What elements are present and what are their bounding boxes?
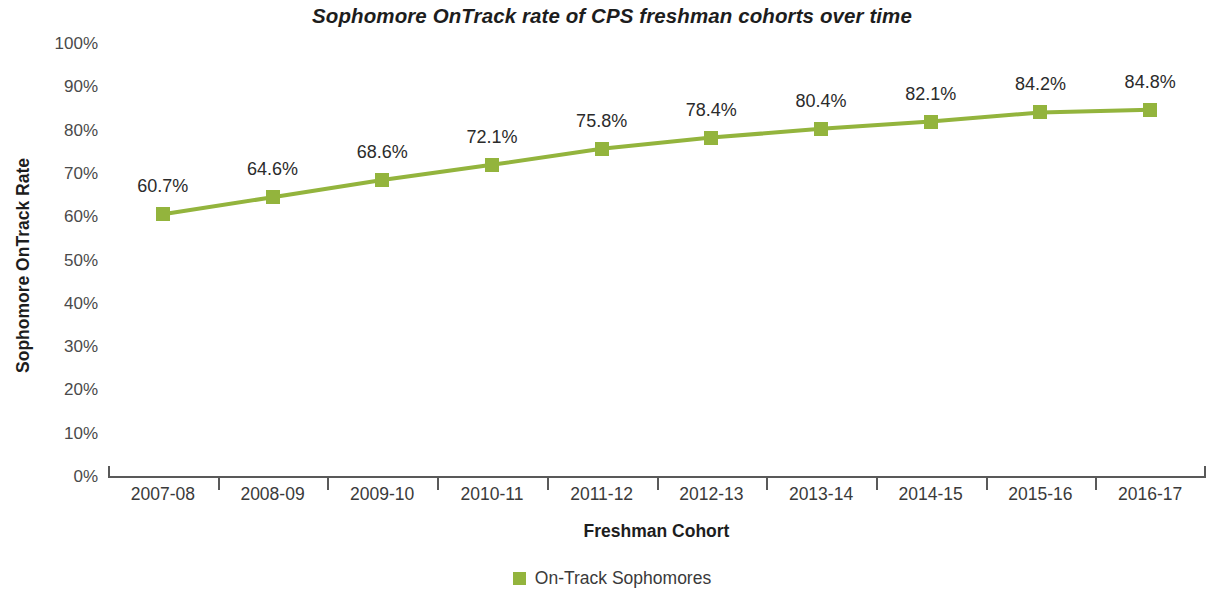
y-axis-tick-label: 40% [8, 295, 98, 312]
x-axis-right-cap [1204, 466, 1206, 478]
y-axis-tick-label: 60% [8, 208, 98, 225]
chart-title: Sophomore OnTrack rate of CPS freshman c… [0, 4, 1224, 28]
chart-legend: On-Track Sophomores [0, 568, 1224, 589]
y-axis-tick-label: 80% [8, 122, 98, 139]
data-point-marker[interactable] [266, 190, 280, 204]
data-point-marker[interactable] [485, 158, 499, 172]
y-axis-tick-label: 20% [8, 381, 98, 398]
y-axis-tick-label: 0% [8, 468, 98, 485]
data-point-marker[interactable] [1143, 103, 1157, 117]
series-polyline [163, 110, 1150, 214]
data-point-label: 78.4% [686, 100, 737, 121]
data-point-marker[interactable] [375, 173, 389, 187]
y-axis-tick-label: 50% [8, 252, 98, 269]
data-point-marker[interactable] [1033, 105, 1047, 119]
data-point-label: 82.1% [905, 84, 956, 105]
y-axis-tick-label: 30% [8, 338, 98, 355]
x-axis-category-label: 2011-12 [547, 484, 657, 505]
x-axis-category-label: 2008-09 [218, 484, 328, 505]
x-axis-category-label: 2015-16 [986, 484, 1096, 505]
legend-swatch-icon [513, 572, 526, 585]
x-axis-category-label: 2014-15 [876, 484, 986, 505]
data-point-marker[interactable] [814, 122, 828, 136]
legend-label: On-Track Sophomores [535, 568, 711, 589]
data-point-label: 72.1% [466, 127, 517, 148]
data-point-marker[interactable] [704, 131, 718, 145]
x-axis-left-cap [108, 466, 110, 478]
x-axis-category-label: 2013-14 [766, 484, 876, 505]
y-axis-tick-label: 10% [8, 425, 98, 442]
x-axis-category-label: 2016-17 [1095, 484, 1205, 505]
data-point-marker[interactable] [924, 115, 938, 129]
data-point-label: 60.7% [137, 176, 188, 197]
data-point-marker[interactable] [156, 207, 170, 221]
data-point-label: 75.8% [576, 111, 627, 132]
y-axis-tick-label: 70% [8, 165, 98, 182]
data-point-label: 84.2% [1015, 74, 1066, 95]
x-axis-category-label: 2010-11 [437, 484, 547, 505]
x-axis-category-label: 2012-13 [657, 484, 767, 505]
data-point-label: 84.8% [1125, 72, 1176, 93]
y-axis-tick-label: 100% [8, 35, 98, 52]
x-axis-category-label: 2007-08 [108, 484, 218, 505]
x-axis-category-label: 2009-10 [327, 484, 437, 505]
chart-container: Sophomore OnTrack rate of CPS freshman c… [0, 0, 1224, 593]
x-axis-title: Freshman Cohort [108, 521, 1205, 542]
data-point-label: 68.6% [357, 142, 408, 163]
data-point-label: 80.4% [796, 91, 847, 112]
data-point-label: 64.6% [247, 159, 298, 180]
data-point-marker[interactable] [595, 142, 609, 156]
y-axis-tick-label: 90% [8, 78, 98, 95]
